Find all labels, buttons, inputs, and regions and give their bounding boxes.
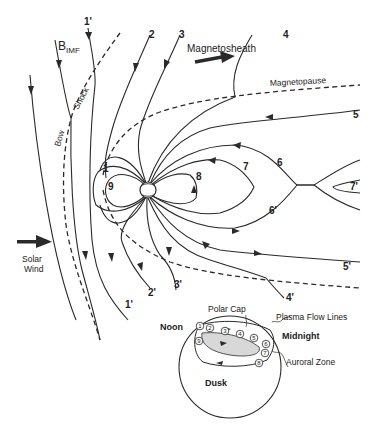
magnetosheath-label: Magnetosheath bbox=[187, 43, 256, 54]
num-3: 3 bbox=[179, 29, 185, 40]
earth-icon bbox=[140, 182, 156, 198]
field-line-1 bbox=[93, 166, 146, 211]
field-line-6 bbox=[150, 145, 360, 185]
field-line-6-prime bbox=[150, 185, 360, 228]
midnight-label: Midnight bbox=[282, 331, 320, 341]
num-7p: 7' bbox=[350, 181, 358, 192]
earth-polar-view bbox=[179, 316, 281, 418]
field-line-3 bbox=[138, 35, 180, 183]
solar-label: Solar bbox=[22, 254, 42, 264]
magnetopause-label: Magnetopause bbox=[270, 75, 327, 88]
polar-cap-label: Polar Cap bbox=[208, 304, 246, 314]
num-1p-top: 1' bbox=[84, 16, 92, 27]
num-8: 8 bbox=[196, 171, 202, 182]
ionosphere-inset: 1 2 3 4 5 6 7 8 9 Polar Cap Plasma Flow … bbox=[160, 304, 347, 418]
num-5p: 5' bbox=[343, 261, 351, 272]
num-3p: 3' bbox=[174, 279, 182, 290]
magnetosphere-diagram: BIMF Bow Shock Magnetosheath Magnetopaus… bbox=[0, 0, 378, 430]
field-line-2 bbox=[105, 35, 150, 178]
num-1p-bottom: 1' bbox=[125, 299, 133, 310]
num-4p: 4' bbox=[286, 292, 294, 303]
wind-label: Wind bbox=[24, 264, 44, 274]
dusk-label: Dusk bbox=[205, 378, 228, 388]
plasma-flow-lines-label: Plasma Flow Lines bbox=[276, 312, 347, 322]
field-line-3-prime bbox=[147, 198, 176, 290]
solar-wind-arrow bbox=[17, 235, 52, 248]
num-6: 6 bbox=[277, 157, 283, 168]
bow-label: Bow bbox=[52, 128, 66, 147]
num-9: 9 bbox=[108, 181, 114, 192]
shock-label: Shock bbox=[71, 85, 91, 111]
field-line-5 bbox=[150, 110, 360, 184]
num-1: 1 bbox=[103, 163, 109, 174]
num-7: 7 bbox=[243, 161, 249, 172]
num-4: 4 bbox=[283, 29, 289, 40]
noon-label: Noon bbox=[160, 322, 183, 332]
num-6p: 6' bbox=[269, 205, 277, 216]
auroral-zone-label: Auroral Zone bbox=[286, 357, 335, 367]
num-2: 2 bbox=[149, 29, 155, 40]
num-2p: 2' bbox=[148, 287, 156, 298]
num-5: 5 bbox=[353, 109, 359, 120]
bimf-label: BIMF bbox=[58, 39, 80, 55]
